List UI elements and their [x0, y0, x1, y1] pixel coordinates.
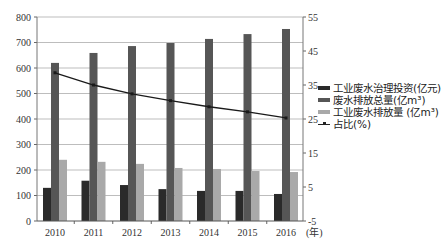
legend-swatch-mid [318, 98, 330, 102]
legend-item-industrial: 工业废水排放量 (亿m³) [318, 106, 441, 118]
x-tick-label: 2016 [276, 227, 296, 238]
bar [290, 172, 298, 221]
y-left-tick-label: 400 [16, 114, 31, 125]
bar [90, 53, 98, 221]
bar [128, 46, 136, 221]
legend-item-investment: 工业废水治理投资(亿元) [318, 82, 441, 94]
legend-item-total: 废水排放总量(亿m³) [318, 94, 441, 106]
y-left-tick-label: 300 [16, 139, 31, 150]
y-right-tick-label: 45 [308, 46, 318, 57]
y-left-tick-label: 700 [16, 37, 31, 48]
legend-line-marker-icon [318, 121, 330, 127]
line-marker [285, 116, 288, 119]
bar [205, 39, 213, 221]
legend: 工业废水治理投资(亿元) 废水排放总量(亿m³) 工业废水排放量 (亿m³) 占… [318, 82, 441, 130]
bar [120, 185, 128, 221]
y-left-tick-label: 200 [16, 165, 31, 176]
bar [197, 191, 205, 221]
x-tick-label: 2010 [45, 227, 65, 238]
bar [236, 191, 244, 221]
bar [51, 63, 59, 221]
x-axis-unit-label: (年) [306, 226, 323, 239]
bar [136, 164, 144, 221]
legend-label: 废水排放总量(亿m³) [333, 94, 426, 106]
line-marker [54, 71, 57, 74]
bar [167, 43, 175, 221]
x-tick-label: 2012 [122, 227, 142, 238]
bar [43, 188, 51, 221]
y-right-tick-label: 15 [308, 148, 318, 159]
x-tick-label: 2014 [199, 227, 219, 238]
legend-swatch-light [318, 110, 330, 114]
line-marker [131, 92, 134, 95]
bar [159, 189, 167, 221]
y-left-tick-label: 0 [26, 216, 31, 227]
y-right-tick-label: -5 [308, 216, 316, 227]
bar [244, 34, 252, 221]
legend-label: 工业废水治理投资(亿元) [333, 82, 441, 94]
bar [98, 162, 106, 221]
legend-swatch-dark [318, 86, 330, 90]
bar [282, 29, 290, 221]
y-right-tick-label: 25 [308, 114, 318, 125]
y-left-tick-label: 800 [16, 12, 31, 23]
line-marker [246, 110, 249, 113]
bar [59, 160, 67, 221]
legend-item-ratio: 占比(%) [318, 118, 441, 130]
y-left-tick-label: 100 [16, 190, 31, 201]
line-marker [169, 99, 172, 102]
bar-series [43, 29, 298, 221]
legend-label: 工业废水排放量 (亿m³) [333, 106, 439, 118]
x-tick-label: 2013 [161, 227, 181, 238]
y-left-tick-label: 500 [16, 88, 31, 99]
line-marker [92, 84, 95, 87]
bar [213, 169, 221, 221]
x-tick-label: 2015 [238, 227, 258, 238]
line-marker [208, 105, 211, 108]
legend-label: 占比(%) [333, 118, 371, 130]
y-left-tick-label: 600 [16, 63, 31, 74]
bar [274, 194, 282, 221]
x-tick-label: 2011 [84, 227, 104, 238]
y-right-tick-label: 5 [308, 182, 313, 193]
bar [175, 168, 183, 221]
y-right-tick-label: 35 [308, 80, 318, 91]
bar [82, 181, 90, 221]
bar [252, 171, 260, 221]
y-right-tick-label: 55 [308, 12, 318, 23]
